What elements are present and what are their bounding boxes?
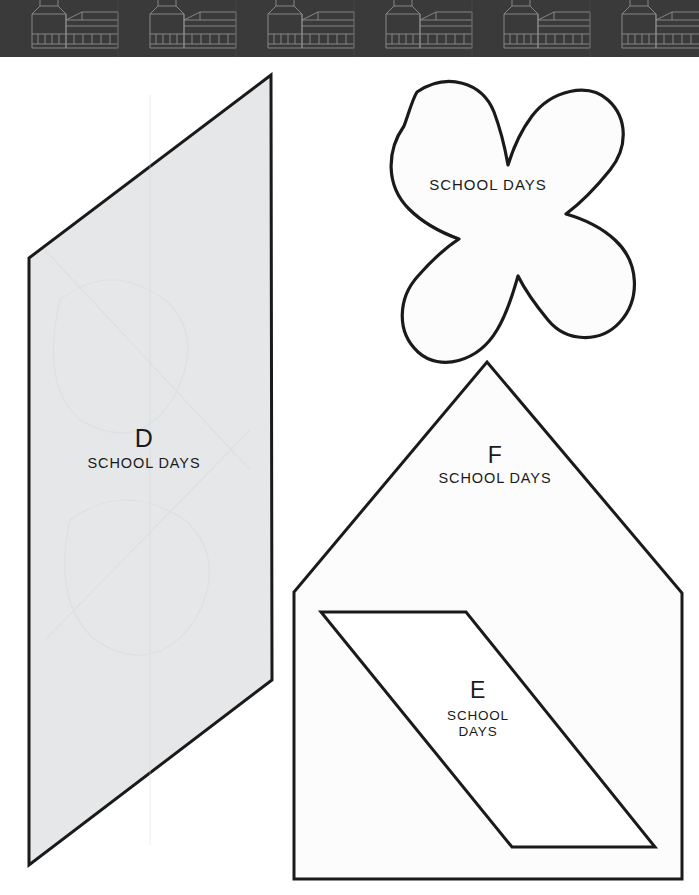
label-d-letter: D [54, 424, 234, 454]
label-f-caption: SCHOOL DAYS [410, 470, 580, 487]
label-e-caption-line2: DAYS [418, 724, 538, 740]
label-d-caption: SCHOOL DAYS [54, 455, 234, 472]
label-template-d: D SCHOOL DAYS [54, 424, 234, 472]
label-x-caption: SCHOOL DAYS [393, 176, 583, 194]
label-template-x: SCHOOL DAYS [393, 176, 583, 194]
page-root: D SCHOOL DAYS SCHOOL DAYS F SCHOOL DAYS … [0, 0, 699, 895]
label-e-caption-line1: SCHOOL [418, 708, 538, 724]
template-x-shape [391, 82, 634, 363]
label-f-letter: F [410, 442, 580, 469]
label-template-e: E SCHOOL DAYS [418, 677, 538, 740]
label-e-letter: E [418, 677, 538, 704]
label-template-f: F SCHOOL DAYS [410, 442, 580, 487]
